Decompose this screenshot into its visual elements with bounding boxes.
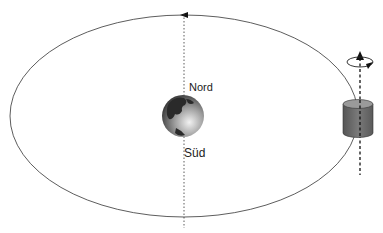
earth-icon (162, 95, 204, 137)
satellite-icon (343, 100, 373, 138)
spin-axis-arrow-icon (356, 51, 364, 60)
rotation-arrow-icon (366, 62, 373, 69)
label-north: Nord (189, 81, 213, 93)
label-south: Süd (184, 146, 205, 160)
orbit-diagram (0, 0, 383, 233)
